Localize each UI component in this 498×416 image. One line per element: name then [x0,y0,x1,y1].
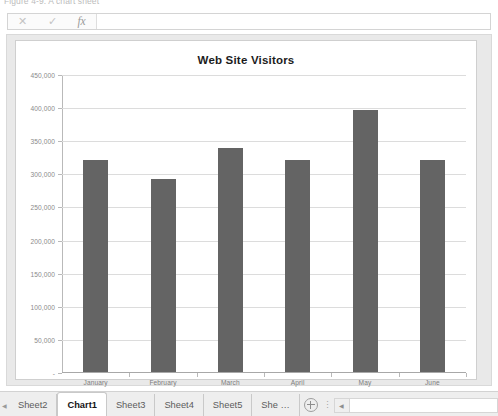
y-axis-tick [58,274,62,275]
gridline [62,340,466,341]
horizontal-scrollbar[interactable]: ◀ [334,398,498,413]
y-axis-label: 300,000 [30,171,55,178]
plus-circle-icon [304,398,318,412]
x-axis-label: May [359,379,372,386]
y-axis-label: 50,000 [34,336,55,343]
x-axis-label: April [291,379,305,386]
y-axis-label: - [53,370,55,377]
formula-bar-buttons: ✕ ✓ fx [8,14,97,29]
figure-caption: Figure 4-9: A chart sheet [4,0,224,6]
sheet-tab-sheet3[interactable]: Sheet3 [107,394,155,416]
chevron-left-icon[interactable]: ◀ [0,394,9,416]
y-axis-tick [58,75,62,76]
bar[interactable] [151,179,176,372]
x-axis-label: January [84,379,108,386]
y-axis-tick [58,108,62,109]
y-axis-line [62,75,63,373]
gridline [62,241,466,242]
y-axis-label: 250,000 [30,204,55,211]
bar[interactable] [83,160,108,372]
formula-bar: ✕ ✓ fx [7,13,491,30]
scroll-left-arrow-icon[interactable]: ◀ [335,399,350,412]
formula-input[interactable] [97,14,490,29]
x-axis-tick [331,373,332,377]
y-axis-label: 150,000 [30,270,55,277]
sheet-tab-sheet2[interactable]: Sheet2 [9,394,57,416]
y-axis-label: 450,000 [30,72,55,79]
x-axis-tick [129,373,130,377]
y-axis-tick [58,207,62,208]
scrollbar-track[interactable] [350,399,497,412]
bar[interactable] [353,110,378,372]
gridline [62,307,466,308]
y-axis-label: 200,000 [30,237,55,244]
add-sheet-button[interactable] [300,394,322,416]
close-icon[interactable]: ✕ [18,16,27,27]
gridline [62,274,466,275]
gridline [62,207,466,208]
gridline [62,174,466,175]
y-axis-tick [58,373,62,374]
gridline [62,141,466,142]
chart-title: Web Site Visitors [16,54,476,66]
y-axis-tick [58,174,62,175]
y-axis-label: 100,000 [30,303,55,310]
x-axis-label: June [425,379,440,386]
gridline [62,75,466,76]
chart-sheet[interactable]: Web Site Visitors -50,000100,000150,0002… [6,34,492,386]
bar[interactable] [285,160,310,372]
bar[interactable] [218,148,243,372]
sheet-tab-sheet5[interactable]: Sheet5 [204,394,252,416]
sheet-tabs: Sheet2Chart1Sheet3Sheet4Sheet5She … [9,392,300,416]
y-axis-tick [58,141,62,142]
chart-canvas[interactable]: Web Site Visitors -50,000100,000150,0002… [15,40,477,380]
x-axis-tick [399,373,400,377]
sheet-tab-bar: ◀ Sheet2Chart1Sheet3Sheet4Sheet5She … ⋮ … [0,391,498,416]
x-axis-label: March [221,379,240,386]
check-icon[interactable]: ✓ [48,16,57,27]
vertical-dots-icon[interactable]: ⋮ [322,394,334,416]
y-axis-tick [58,241,62,242]
x-axis-tick [466,373,467,377]
sheet-tab-sheet4[interactable]: Sheet4 [155,394,203,416]
y-axis-label: 400,000 [30,105,55,112]
x-axis-tick [197,373,198,377]
x-axis-label: February [149,379,176,386]
sheet-tab-chart1[interactable]: Chart1 [57,392,106,416]
y-axis-tick [58,340,62,341]
insert-function-icon[interactable]: fx [77,16,85,28]
y-axis-label: 350,000 [30,138,55,145]
bar[interactable] [420,160,445,372]
x-axis-tick [264,373,265,377]
y-axis-tick [58,307,62,308]
plot-area[interactable]: -50,000100,000150,000200,000250,000300,0… [62,75,466,373]
sheet-tab-she[interactable]: She … [252,394,299,416]
gridline [62,108,466,109]
